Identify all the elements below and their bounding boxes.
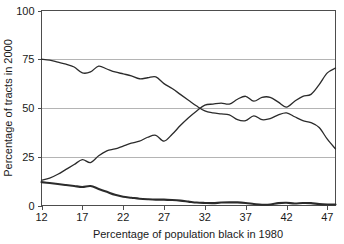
x-tick-label-12: 12 — [35, 211, 47, 223]
x-tick-label-22: 22 — [117, 211, 129, 223]
x-axis-tick-labels: 1217222732374247 — [35, 211, 333, 223]
y-tick-label-75: 75 — [22, 53, 34, 65]
y-tick-label-0: 0 — [28, 200, 34, 212]
y-tick-label-100: 100 — [16, 5, 34, 17]
y-axis-title: Percentage of tracts in 2000 — [2, 39, 14, 177]
grid-lines — [42, 60, 336, 158]
tick-marks — [38, 12, 328, 210]
y-tick-label-50: 50 — [22, 102, 34, 114]
x-tick-label-42: 42 — [280, 211, 292, 223]
series-low-declining-curve — [42, 182, 336, 205]
x-tick-label-47: 47 — [321, 211, 333, 223]
data-series-group — [42, 59, 336, 205]
line-chart: 1217222732374247 0255075100 Percentage o… — [0, 0, 344, 244]
x-axis-title: Percentage of population black in 1980 — [93, 228, 283, 240]
x-tick-label-32: 32 — [199, 211, 211, 223]
x-tick-label-17: 17 — [76, 211, 88, 223]
y-axis-tick-labels: 0255075100 — [16, 5, 34, 212]
x-tick-label-27: 27 — [158, 211, 170, 223]
x-tick-label-37: 37 — [240, 211, 252, 223]
series-rising-curve — [42, 68, 336, 180]
chart-container: 1217222732374247 0255075100 Percentage o… — [0, 0, 344, 244]
y-tick-label-25: 25 — [22, 151, 34, 163]
